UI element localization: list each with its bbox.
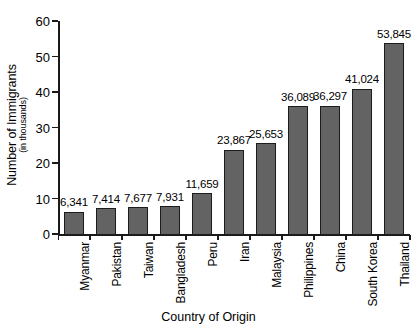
bar	[384, 43, 405, 234]
y-axis-tick-label: 40	[36, 85, 50, 100]
y-axis-tick-label: 0	[43, 227, 50, 242]
x-axis-tick	[89, 235, 90, 240]
x-axis-title: Country of Origin	[0, 310, 417, 324]
y-axis-tick	[52, 162, 58, 164]
x-axis-category-label: Pakistan	[110, 242, 124, 286]
bar-chart-figure: Number of Immigrants (in thousands) 0102…	[0, 0, 417, 330]
bar-value-label: 6,341	[60, 196, 88, 208]
x-axis-tick	[58, 235, 59, 240]
bar-value-label: 25,653	[249, 128, 283, 140]
x-axis-category-label: Philippines	[302, 242, 316, 298]
bar	[128, 207, 149, 234]
bar-value-label: 36,089	[281, 91, 315, 103]
bar-value-label: 11,659	[185, 178, 218, 190]
y-axis-tick-label: 60	[36, 14, 50, 29]
y-axis-tick	[52, 20, 58, 22]
bar	[224, 150, 245, 235]
x-axis-category-label: China	[334, 242, 348, 272]
x-axis-tick	[121, 235, 122, 240]
x-axis-tick	[377, 235, 378, 240]
x-axis-tick	[249, 235, 250, 240]
y-axis-tick-label: 20	[36, 156, 50, 171]
x-axis-tick	[409, 235, 410, 240]
bar-value-label: 53,845	[377, 28, 411, 40]
bar	[96, 208, 117, 234]
bar-value-label: 7,414	[92, 193, 120, 205]
x-axis-tick	[217, 235, 218, 240]
x-axis-category-label: Peru	[206, 242, 220, 267]
bar-value-label: 7,677	[124, 192, 152, 204]
bar	[160, 206, 181, 234]
y-axis-title-sub: (in thousands)	[19, 64, 28, 186]
y-axis-tick	[52, 198, 58, 200]
x-axis-category-label: Taiwan	[142, 242, 156, 278]
y-axis-tick-label: 10	[36, 191, 50, 206]
bar	[320, 106, 341, 235]
y-axis-tick-label: 30	[36, 120, 50, 135]
bar-value-label: 23,867	[217, 134, 251, 146]
plot-area: 0102030405060 6,3417,4147,6777,93111,659…	[58, 18, 410, 238]
bar	[256, 143, 277, 234]
x-axis-tick	[345, 235, 346, 240]
x-axis-category-label: Iran	[238, 242, 252, 262]
x-axis-tick	[185, 235, 186, 240]
bar-value-label: 41,024	[345, 73, 379, 85]
y-axis-title: Number of Immigrants (in thousands)	[0, 0, 34, 250]
x-axis-tick	[313, 235, 314, 240]
x-axis-category-label: Myanmar	[78, 242, 92, 291]
bar-value-label: 36,297	[313, 90, 347, 102]
bar	[288, 106, 309, 234]
y-axis-tick	[52, 56, 58, 58]
x-axis-category-label: Malaysia	[270, 242, 284, 288]
bar	[352, 89, 373, 235]
y-axis-tick	[52, 91, 58, 93]
x-axis-category-label: South Korea	[366, 242, 380, 307]
x-axis-category-label: Bangladesh	[174, 242, 188, 303]
bar	[192, 193, 213, 234]
bar-value-label: 7,931	[156, 191, 184, 203]
bar	[64, 212, 85, 235]
y-axis-tick	[52, 127, 58, 129]
x-axis-tick	[153, 235, 154, 240]
y-axis-tick-label: 50	[36, 49, 50, 64]
x-axis-category-label: Thailand	[398, 242, 412, 286]
x-axis-tick	[281, 235, 282, 240]
